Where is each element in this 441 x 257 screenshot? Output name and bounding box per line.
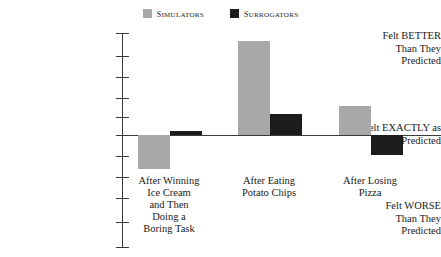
category-label-line: After Losing bbox=[315, 175, 425, 187]
bar-simulators-losing-pizza bbox=[339, 106, 371, 135]
bar-surrogators-winning-ice-cream bbox=[170, 131, 202, 135]
category-label-line: Pizza bbox=[315, 187, 425, 199]
category-label-winning-ice-cream: After Winning Ice Cream and Then Doing a… bbox=[114, 175, 224, 235]
category-label-line: Ice Cream bbox=[114, 187, 224, 199]
category-label-line: Boring Task bbox=[114, 223, 224, 235]
category-label-losing-pizza: After Losing Pizza bbox=[315, 175, 425, 199]
bar-surrogators-losing-pizza bbox=[371, 135, 403, 155]
category-label-line: After Eating bbox=[214, 175, 324, 187]
category-label-line: After Winning bbox=[114, 175, 224, 187]
category-label-line: and Then bbox=[114, 199, 224, 211]
affective-forecasting-chart: Simulators Surrogators Felt BETTER Than … bbox=[0, 0, 441, 257]
category-label-line: Potato Chips bbox=[214, 187, 324, 199]
category-label-line: Doing a bbox=[114, 211, 224, 223]
category-label-potato-chips: After Eating Potato Chips bbox=[214, 175, 324, 199]
plot-area: After Winning Ice Cream and Then Doing a… bbox=[122, 0, 441, 257]
bar-simulators-potato-chips bbox=[238, 41, 270, 135]
bar-surrogators-potato-chips bbox=[270, 114, 302, 135]
bar-simulators-winning-ice-cream bbox=[138, 135, 170, 169]
